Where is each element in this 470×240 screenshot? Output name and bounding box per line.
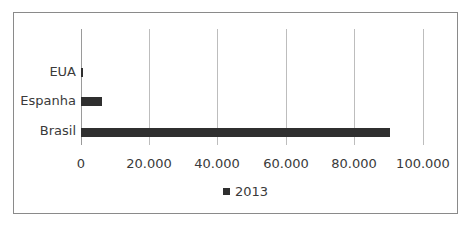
x-tick-label: 0 [77,156,85,171]
bar-eua [81,68,83,77]
gridline-100000 [423,29,424,145]
x-tick-label: 100.000 [396,156,450,171]
legend: 2013 [223,184,268,199]
x-tick-label: 60.000 [263,156,309,171]
legend-swatch-icon [223,188,230,195]
category-label-brasil: Brasil [40,123,76,138]
x-tick-label: 40.000 [194,156,240,171]
x-tick-label: 80.000 [331,156,377,171]
bar-espanha [81,97,102,106]
bar-brasil [81,128,390,137]
category-label-eua: EUA [49,64,76,79]
x-tick-label: 20.000 [126,156,172,171]
legend-label: 2013 [235,184,268,199]
category-label-espanha: Espanha [20,93,76,108]
